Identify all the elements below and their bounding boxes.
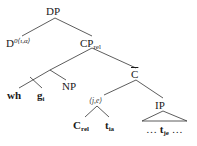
node-t-ia: tia [105,120,114,133]
node-d0-label: D [6,37,14,49]
node-cp-label: CP [80,37,93,49]
node-ip-content: … tje … [146,124,183,137]
node-wh: wh [7,90,21,101]
edge-lambda-tia [97,106,109,117]
node-lambda-label: ⟨j,e⟩ [89,96,102,105]
node-np: NP [62,81,76,92]
edge-whphrase-np [50,70,66,80]
node-lambda-type: ⟨j,e⟩ [89,97,102,105]
node-tia-sub: ia [109,125,114,133]
edge-dp-cp [55,18,92,36]
node-cp-sub: rel [93,43,100,51]
node-ip-label: IP [155,99,165,111]
edge-cbar-ip [136,80,163,98]
node-ip: IP [155,100,165,111]
node-wh-label: wh [7,89,21,101]
edge-cbar-lambda [104,80,136,95]
node-c-rel: Crel [73,120,89,133]
edge-cp-cbar [92,48,136,68]
edge-lambda-crel [85,106,97,117]
node-d0-type: ⟨ι,α⟩ [17,37,30,45]
node-g-sub: i [43,95,45,103]
ip-triangle [142,111,187,121]
node-dp-label: DP [46,5,60,17]
ellipsis-left: … [146,123,160,135]
edge-dp-d [22,18,55,36]
node-crel-sub: rel [81,125,89,133]
node-np-label: NP [62,80,76,92]
edge-cp-whphrase [50,48,92,70]
edge-whphrase-wh [19,70,50,88]
node-crel-label: C [73,119,81,131]
node-cbar-label: C [131,68,138,80]
node-cp-rel: CPrel [80,38,101,51]
node-d0: D0⟨ι,α⟩ [6,38,30,49]
node-c-bar: C [131,69,138,80]
node-dp: DP [46,6,60,17]
ellipsis-right: … [169,123,183,135]
edge-whphrase-g [30,77,42,88]
node-g: gi [37,90,44,103]
